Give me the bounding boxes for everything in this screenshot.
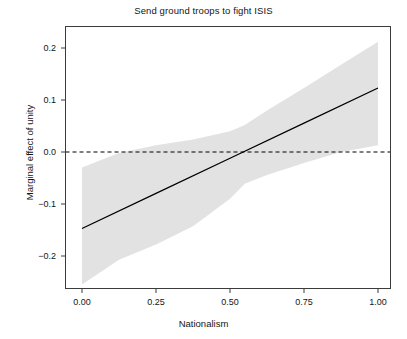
- plot-canvas: [0, 0, 407, 339]
- y-tick-label: −0.1: [22, 199, 56, 209]
- confidence-interval-band: [82, 42, 378, 285]
- y-tick-label: 0.0: [22, 147, 56, 157]
- y-tick-label: 0.1: [22, 95, 56, 105]
- confidence-band-group: [82, 42, 378, 285]
- x-tick-label: 1.00: [369, 297, 387, 307]
- chart-figure: Send ground troops to fight ISIS Margina…: [0, 0, 407, 339]
- x-tick-label: 0.25: [147, 297, 165, 307]
- x-tick-label: 0.50: [221, 297, 239, 307]
- y-tick-label: −0.2: [22, 251, 56, 261]
- x-tick-label: 0.00: [73, 297, 91, 307]
- x-tick-label: 0.75: [295, 297, 313, 307]
- y-tick-label: 0.2: [22, 43, 56, 53]
